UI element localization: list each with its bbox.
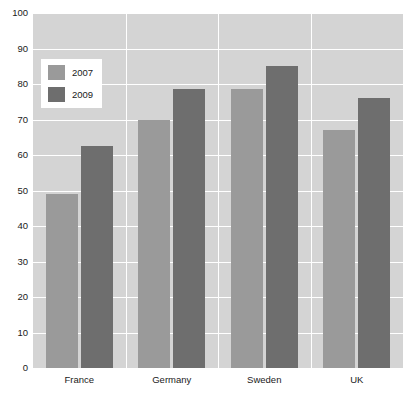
x-axis-tick-label: Germany <box>126 374 219 385</box>
bar-chart: 20072009 0102030405060708090100FranceGer… <box>0 0 403 399</box>
bar-uk-2007 <box>323 130 355 368</box>
bar-germany-2007 <box>138 120 170 369</box>
gridline-vertical <box>218 13 219 368</box>
y-axis-tick-label: 40 <box>0 221 28 231</box>
legend-swatch-icon <box>48 65 65 80</box>
x-axis-tick-label: Sweden <box>218 374 311 385</box>
y-axis-tick-label: 100 <box>0 8 28 18</box>
x-axis-tick-label: UK <box>311 374 403 385</box>
gridline-vertical <box>311 13 312 368</box>
bar-sweden-2009 <box>266 66 298 368</box>
y-axis-tick-label: 10 <box>0 328 28 338</box>
y-axis-tick-label: 20 <box>0 292 28 302</box>
legend-item-label: 2009 <box>72 89 93 100</box>
y-axis-tick-label: 60 <box>0 150 28 160</box>
legend-swatch-icon <box>48 87 65 102</box>
bar-sweden-2007 <box>231 89 263 368</box>
y-axis-tick-label: 30 <box>0 257 28 267</box>
chart-title <box>0 0 403 3</box>
legend-item-label: 2007 <box>72 67 93 78</box>
y-axis-tick-label: 50 <box>0 186 28 196</box>
chart-legend: 20072009 <box>41 59 102 108</box>
y-axis-tick-label: 70 <box>0 115 28 125</box>
bar-france-2007 <box>46 194 78 368</box>
y-axis-tick-label: 0 <box>0 363 28 373</box>
x-axis-tick-label: France <box>33 374 126 385</box>
y-axis-tick-label: 80 <box>0 79 28 89</box>
bar-france-2009 <box>81 146 113 368</box>
y-axis-tick-label: 90 <box>0 44 28 54</box>
bar-germany-2009 <box>173 89 205 368</box>
legend-item-2007: 2007 <box>48 65 93 80</box>
bar-uk-2009 <box>358 98 390 368</box>
legend-item-2009: 2009 <box>48 87 93 102</box>
gridline-vertical <box>126 13 127 368</box>
